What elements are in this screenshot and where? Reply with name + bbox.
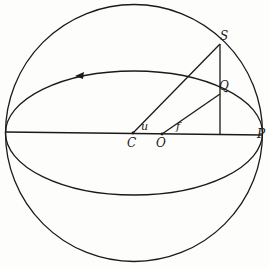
label-S: S: [220, 30, 228, 42]
point-C: [132, 132, 135, 135]
point-O: [161, 133, 164, 136]
label-Q: Q: [219, 80, 229, 92]
diagram-canvas: S Q P C O u f: [0, 0, 269, 267]
label-angle-u: u: [141, 121, 148, 132]
label-C: C: [127, 137, 136, 149]
label-P: P: [257, 128, 265, 140]
diagram-drawing: [0, 0, 269, 267]
label-angle-f: f: [176, 121, 180, 132]
line-OQ: [162, 94, 220, 134]
label-O: O: [156, 137, 166, 149]
